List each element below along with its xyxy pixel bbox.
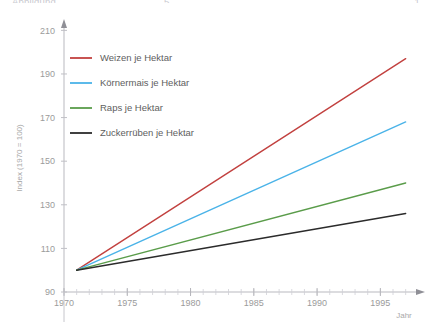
x-tick-label: 1985: [244, 298, 264, 308]
series-line: [77, 214, 406, 271]
x-axis-arrow: [416, 289, 425, 295]
y-axis-title: Index (1970 = 100): [15, 124, 24, 192]
legend-label: Zuckerrüben je Hektar: [100, 127, 194, 138]
y-tick-label: 210: [40, 26, 55, 36]
series-group: [77, 59, 406, 270]
cropped-header-left: Abbildung: [12, 0, 56, 3]
y-tick-label: 170: [40, 113, 55, 123]
legend-label: Weizen je Hektar: [100, 52, 172, 63]
x-tick-label: 1980: [181, 298, 201, 308]
x-tick-group: 197019751980198519901995: [54, 288, 390, 308]
line-chart-svg: 90110130150170190210 1970197519801985199…: [0, 0, 432, 333]
x-tick-label: 1975: [117, 298, 137, 308]
series-line: [77, 59, 406, 270]
chart-container: Abbildung 5 1 90110130150170190210 19701…: [0, 0, 432, 333]
y-tick-label: 150: [40, 156, 55, 166]
y-tick-label: 90: [45, 287, 55, 297]
x-axis: [64, 289, 425, 295]
y-axis-arrow: [61, 19, 67, 28]
legend-label: Raps je Hektar: [100, 102, 163, 113]
legend: Weizen je HektarKörnermais je HektarRaps…: [70, 52, 194, 138]
x-tick-label: 1995: [370, 298, 390, 308]
y-tick-label: 110: [41, 244, 55, 254]
y-tick-label: 130: [40, 200, 55, 210]
cropped-header-text: Abbildung 5 1: [12, 0, 420, 3]
y-tick-group: 90110130150170190210: [40, 26, 67, 298]
cropped-header-mid: 5: [164, 0, 169, 3]
x-axis-title: Jahr: [396, 311, 412, 320]
cropped-header-right: 1: [415, 0, 420, 3]
y-axis: [61, 19, 67, 292]
y-tick-label: 190: [40, 69, 55, 79]
legend-label: Körnermais je Hektar: [100, 77, 189, 88]
x-tick-label: 1990: [307, 298, 327, 308]
